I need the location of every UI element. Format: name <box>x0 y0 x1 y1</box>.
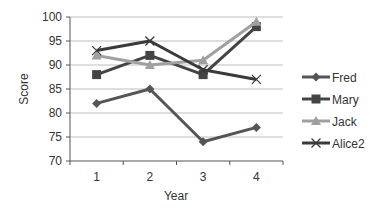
y-tick-label: 70 <box>49 154 63 168</box>
y-tick-label: 80 <box>49 106 63 120</box>
y-tick-label: 75 <box>49 130 63 144</box>
x-tick-label: 2 <box>147 170 154 184</box>
y-axis-label: Score <box>17 73 31 105</box>
square-marker <box>92 70 101 79</box>
legend: FredMaryJackAlice2 <box>302 71 365 151</box>
y-tick-label: 90 <box>49 58 63 72</box>
legend-label: Fred <box>332 71 357 85</box>
x-tick-label: 4 <box>253 170 260 184</box>
series-line <box>97 22 257 65</box>
x-tick-label: 3 <box>200 170 207 184</box>
legend-item-jack: Jack <box>302 115 358 129</box>
legend-label: Jack <box>332 115 358 129</box>
series-mary <box>92 22 261 79</box>
series-jack <box>92 17 262 69</box>
legend-item-fred: Fred <box>302 71 357 85</box>
y-tick-label: 95 <box>49 34 63 48</box>
x-axis-ticks: 1234 <box>70 161 283 184</box>
legend-item-mary: Mary <box>302 93 359 107</box>
series-lines <box>92 17 262 147</box>
diamond-marker <box>312 73 321 82</box>
legend-label: Alice2 <box>332 137 365 151</box>
y-axis-ticks: 707580859095100 <box>42 10 70 168</box>
series-line <box>97 27 257 75</box>
series-line <box>97 89 257 142</box>
legend-label: Mary <box>332 93 359 107</box>
line-chart: 707580859095100 1234 Year Score FredMary… <box>0 0 384 216</box>
y-tick-label: 100 <box>42 10 62 24</box>
y-tick-label: 85 <box>49 82 63 96</box>
square-marker <box>145 51 154 60</box>
diamond-marker <box>92 99 101 108</box>
x-tick-label: 1 <box>93 170 100 184</box>
legend-item-alice2: Alice2 <box>302 137 365 151</box>
triangle-marker <box>251 17 261 26</box>
square-marker <box>312 95 321 104</box>
x-axis-label: Year <box>164 189 188 203</box>
diamond-marker <box>252 123 261 132</box>
